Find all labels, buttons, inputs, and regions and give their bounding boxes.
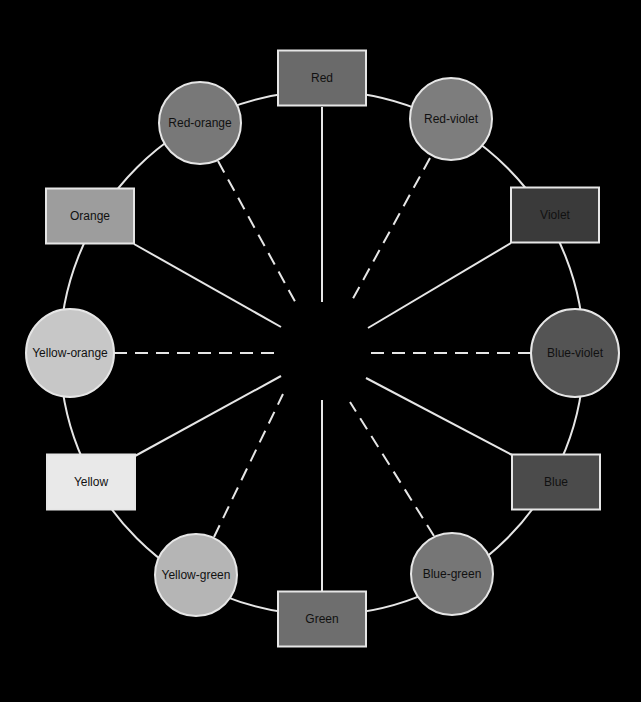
node-label: Blue: [544, 475, 568, 489]
spokes-group: [114, 107, 531, 591]
node-orange: Orange: [46, 189, 134, 244]
node-green: Green: [278, 592, 366, 647]
node-label: Blue-violet: [547, 346, 604, 360]
node-label: Yellow-orange: [32, 346, 108, 360]
node-yellow-green: Yellow-green: [155, 534, 237, 616]
node-label: Yellow-green: [162, 568, 231, 582]
spoke-yellow-solid: [135, 376, 281, 456]
spoke-orange-solid: [134, 244, 281, 327]
node-label: Red: [311, 71, 333, 85]
node-yellow-orange: Yellow-orange: [26, 309, 114, 397]
spoke-blue-green-dashed: [350, 402, 434, 536]
node-label: Yellow: [74, 475, 109, 489]
node-blue-violet: Blue-violet: [531, 309, 619, 397]
node-blue-green: Blue-green: [411, 533, 493, 615]
spoke-yellow-green-dashed: [214, 394, 283, 537]
node-label: Red-violet: [424, 112, 479, 126]
node-red-orange: Red-orange: [159, 82, 241, 164]
node-label: Green: [305, 612, 338, 626]
node-yellow: Yellow: [47, 455, 135, 510]
node-label: Violet: [540, 208, 570, 222]
node-violet: Violet: [511, 188, 599, 243]
node-label: Orange: [70, 209, 110, 223]
node-label: Blue-green: [423, 567, 482, 581]
spoke-red-violet-dashed: [350, 158, 430, 304]
node-red: Red: [278, 51, 366, 106]
spoke-red-orange-dashed: [218, 161, 298, 307]
spoke-violet-solid: [368, 243, 511, 328]
color-wheel-diagram: RedRed-violetVioletBlue-violetBlueBlue-g…: [0, 0, 641, 702]
node-blue: Blue: [512, 455, 600, 510]
node-label: Red-orange: [168, 116, 232, 130]
spoke-blue-solid: [366, 378, 512, 455]
node-red-violet: Red-violet: [410, 78, 492, 160]
